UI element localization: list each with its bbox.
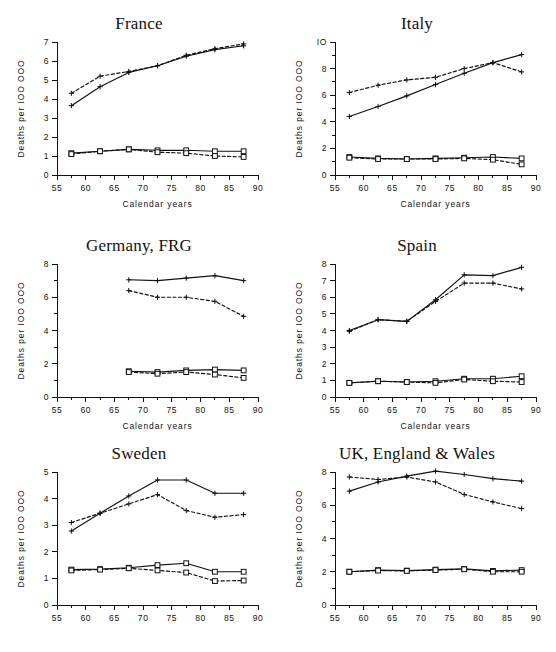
y-tick-label: 7 [44,37,49,47]
plus-marker [126,493,131,498]
x-tick-label: 65 [387,613,398,623]
x-tick-label: 55 [330,183,341,193]
y-axis-label: Deaths per IOO OOO [294,282,304,380]
open-square-marker [462,567,467,572]
plus-marker [241,491,246,496]
open-square-marker [241,569,246,574]
open-square-marker [213,149,218,154]
x-tick-label: 80 [473,183,484,193]
open-square-marker [241,578,246,583]
y-tick-label: 6 [322,90,327,100]
x-tick-label: 55 [52,183,63,193]
x-tick-label: 55 [330,405,341,415]
plus-marker [490,60,495,65]
series-line [71,46,243,106]
plus-marker [347,489,352,494]
x-tick-label: 55 [330,613,341,623]
plus-marker [184,276,189,281]
y-axis-label: Deaths per IOO OOO [16,490,26,588]
y-tick-label: 2 [322,567,327,577]
y-tick-label: 2 [322,143,327,153]
x-tick-label: 60 [80,405,91,415]
open-square-marker [491,157,496,162]
open-square-marker [155,568,160,573]
open-square-marker [184,151,189,156]
open-square-marker [213,372,218,377]
x-tick-label: 80 [195,405,206,415]
x-axis-label: Calendar years [122,421,192,430]
plus-marker [375,317,380,322]
y-tick-label: 6 [44,56,49,66]
plus-marker [375,104,380,109]
open-square-marker [241,368,246,373]
x-tick-label: 75 [167,405,178,415]
plus-marker [97,74,102,79]
y-tick-label: 0 [44,392,49,402]
chart-panel-spain: Spain012345678Deaths per IOO OOO55606570… [278,220,556,430]
y-tick-label: IO [317,37,327,47]
open-square-marker [404,157,409,162]
plus-marker [184,508,189,513]
plus-marker [375,83,380,88]
y-axis-label: Deaths per IOO OOO [16,282,26,380]
plus-marker [404,474,409,479]
open-square-marker [213,569,218,574]
plus-marker [404,77,409,82]
chart-plot-area: 02468Deaths per IOO OOO5560657075808590C… [0,220,278,430]
chart-plot-area: 012345678Deaths per IOO OOO5560657075808… [278,220,556,430]
x-tick-label: 70 [138,405,149,415]
plus-marker [490,499,495,504]
x-axis-label: Calendar years [122,199,192,209]
x-tick-label: 85 [224,183,235,193]
y-tick-label: 4 [322,326,327,336]
y-axis: 02468 [44,259,57,402]
plus-marker [490,281,495,286]
x-tick-label: 60 [80,183,91,193]
x-axis-label: Calendar years [400,421,470,430]
open-square-marker [491,569,496,574]
x-tick-label: 85 [224,405,235,415]
open-square-marker [519,380,524,385]
y-tick-label: 0 [44,600,49,610]
y-axis: 01234567 [44,37,57,180]
plus-marker [184,295,189,300]
plus-marker [519,69,524,74]
y-tick-label: 4 [44,326,49,336]
x-tick-label: 85 [502,183,513,193]
data-series [69,566,246,584]
y-tick-label: 2 [322,359,327,369]
open-square-marker [241,149,246,154]
x-tick-label: 90 [253,183,264,193]
open-square-marker [184,561,189,566]
chart-panel-sweden: Sweden012345Deaths per IOO OOO5560657075… [0,430,278,652]
plus-marker [519,265,524,270]
y-tick-label: 8 [322,64,327,74]
open-square-marker [184,570,189,575]
y-tick-label: 8 [322,259,327,269]
plus-marker [519,479,524,484]
data-series [347,60,524,95]
y-tick-label: 3 [322,342,327,352]
plus-marker [519,52,524,57]
data-series [69,492,246,525]
open-square-marker [519,156,524,161]
plus-marker [126,288,131,293]
y-tick-label: 3 [44,520,49,530]
x-tick-label: 65 [387,405,398,415]
y-tick-label: 0 [322,600,327,610]
y-axis-label: Deaths per IOO OOO [294,490,304,588]
x-tick-label: 70 [138,613,149,623]
plus-marker [433,479,438,484]
chart-plot-area: 01234567Deaths per IOO OOO55606570758085… [0,0,278,220]
open-square-marker [126,370,131,375]
plus-marker [490,476,495,481]
y-tick-label: 4 [44,494,49,504]
plus-marker [155,477,160,482]
plus-marker [212,491,217,496]
open-square-marker [433,568,438,573]
plus-marker [347,474,352,479]
x-tick-label: 75 [445,613,456,623]
y-tick-label: 6 [322,292,327,302]
open-square-marker [491,379,496,384]
x-tick-label: 75 [167,183,178,193]
